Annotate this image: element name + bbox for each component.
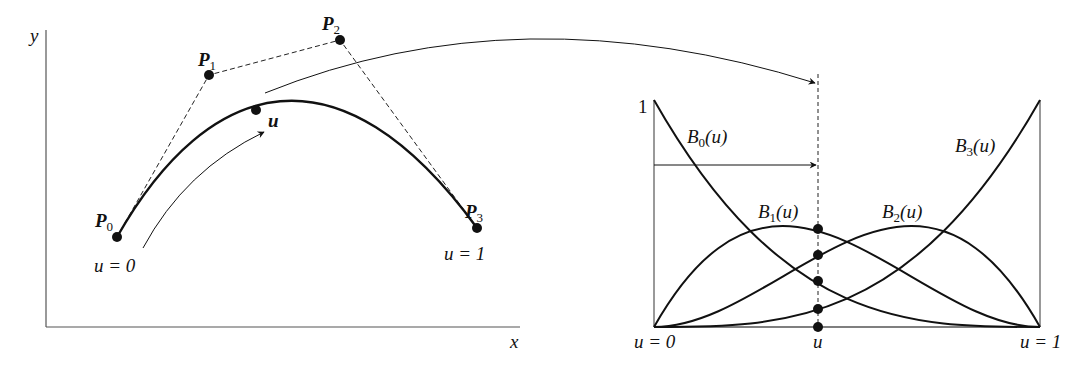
bezier-diagram: y x P0 P1 P2 P3 u u = 0 u = 1: [0, 0, 1084, 371]
x-axis-label: x: [509, 331, 519, 352]
label-b0: B0(u): [687, 126, 727, 150]
y-axis-label: y: [28, 25, 39, 46]
label-p1: P1: [197, 49, 216, 73]
label-p2: P2: [321, 13, 340, 37]
bezier-curve: [117, 101, 477, 237]
left-panel: y x P0 P1 P2 P3 u u = 0 u = 1: [28, 13, 520, 352]
dot-b0: [813, 276, 823, 286]
label-p0: P0: [94, 210, 113, 234]
label-curve-u: u: [268, 110, 279, 131]
curve-point-u: [251, 105, 261, 115]
label-u-end: u = 1: [444, 243, 485, 264]
label-u-zero: u = 0: [634, 331, 676, 352]
right-panel: 1 B0(u) B1(u) B2(u) B3(u) u = 0 u u = 1: [634, 74, 1061, 352]
control-polygon: [117, 40, 477, 237]
parameter-direction-arrow: [143, 132, 264, 248]
dot-b2: [813, 250, 823, 260]
control-point-p0: [112, 232, 122, 242]
label-b3: B3(u): [955, 135, 995, 159]
label-u-one: u = 1: [1020, 331, 1061, 352]
label-b2: B2(u): [882, 201, 922, 225]
mapping-arrow: [265, 39, 815, 93]
dot-b1: [813, 224, 823, 234]
label-b1: B1(u): [758, 201, 798, 225]
basis-curve-b2: [654, 226, 1040, 327]
label-u-mid: u: [813, 331, 823, 352]
label-u-start: u = 0: [94, 255, 136, 276]
dot-b3: [813, 304, 823, 314]
label-p3: P3: [464, 201, 483, 225]
y-max-label: 1: [638, 96, 648, 117]
